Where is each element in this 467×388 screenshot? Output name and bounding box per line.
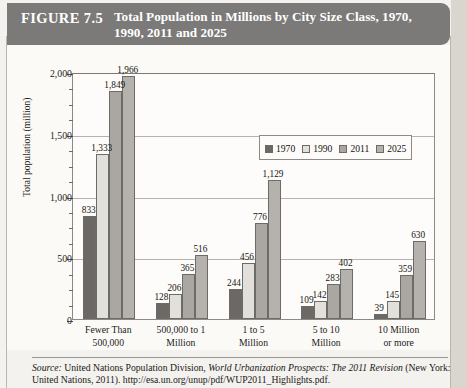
- bar: [83, 216, 96, 319]
- x-axis-label-line: 5 to 10: [312, 324, 341, 337]
- figure-title: Total Population in Millions by City Siz…: [114, 9, 439, 40]
- bar: [156, 303, 169, 319]
- bar-value-label: 365: [180, 263, 194, 273]
- legend-label: 2025: [387, 143, 406, 154]
- legend-swatch-icon: [265, 145, 273, 153]
- legend-swatch-icon: [376, 145, 384, 153]
- bar-value-label: 402: [339, 258, 353, 268]
- source-note: Source: United Nations Population Divisi…: [32, 362, 452, 386]
- bar-value-label: 1,333: [91, 143, 112, 153]
- y-axis-label: 1,000: [7, 191, 72, 202]
- bar: [301, 306, 314, 319]
- bar: [255, 223, 268, 319]
- y-axis-minor-tick: [69, 213, 73, 214]
- x-axis-category-label: Fewer Than500,000: [85, 324, 131, 349]
- bar: [242, 263, 255, 319]
- source-divider: [32, 357, 448, 358]
- y-axis-minor-tick: [69, 290, 73, 291]
- legend-item-1970: 1970: [265, 143, 295, 154]
- x-axis-category-label: 1 to 5Million: [239, 324, 268, 349]
- source-publication-title: World Urbanization Prospects: The 2011 R…: [208, 362, 403, 373]
- bar-value-label: 128: [154, 292, 168, 302]
- y-axis-minor-tick: [69, 182, 73, 183]
- bar-value-label: 776: [253, 212, 267, 222]
- x-axis-label-line: 1 to 5: [239, 324, 268, 337]
- bar-value-label: 1,129: [263, 169, 284, 179]
- y-axis-label: 0: [7, 315, 72, 326]
- y-axis-minor-tick: [69, 228, 73, 229]
- y-axis-minor-tick: [69, 306, 73, 307]
- y-axis-minor-tick: [69, 105, 73, 106]
- page-gutter: [451, 0, 467, 388]
- x-axis-label-line: Fewer Than: [85, 324, 131, 337]
- legend-swatch-icon: [302, 145, 310, 153]
- x-axis-label-line: Million: [157, 337, 206, 350]
- bar-value-label: 1,966: [117, 65, 138, 75]
- source-label: Source:: [32, 362, 62, 373]
- bar: [413, 241, 426, 319]
- chart-legend: 1970199020112025: [259, 135, 412, 160]
- bar-value-label: 833: [82, 205, 96, 215]
- bar-value-label: 244: [227, 278, 241, 288]
- bar: [96, 154, 109, 319]
- bar-value-label: 283: [326, 273, 340, 283]
- source-text-before: United Nations Population Division,: [62, 362, 208, 373]
- legend-label: 2011: [350, 143, 369, 154]
- bar-value-label: 516: [193, 244, 207, 254]
- x-axis-label-line: 500,000: [85, 337, 131, 350]
- x-axis-category-label: 5 to 10Million: [312, 324, 341, 349]
- x-axis-category-label: 500,000 to 1Million: [157, 324, 206, 349]
- y-axis-minor-tick: [69, 275, 73, 276]
- y-axis-label: 500: [7, 253, 72, 264]
- y-axis-minor-tick: [69, 120, 73, 121]
- page-border-right: [450, 36, 451, 388]
- y-axis-minor-tick: [69, 167, 73, 168]
- bar-value-label: 109: [300, 295, 314, 305]
- bar-value-label: 145: [385, 290, 399, 300]
- bar-value-label: 630: [411, 230, 425, 240]
- legend-item-1990: 1990: [302, 143, 332, 154]
- bar: [400, 275, 413, 319]
- legend-item-2025: 2025: [376, 143, 406, 154]
- x-axis-label-line: Million: [312, 337, 341, 350]
- bar-value-label: 39: [375, 303, 384, 313]
- bar-value-label: 1,849: [104, 80, 125, 90]
- bar: [314, 301, 327, 319]
- bar: [268, 180, 281, 319]
- bar: [374, 314, 387, 319]
- y-axis-label: 1,500: [7, 129, 72, 140]
- bar-value-label: 359: [398, 264, 412, 274]
- bar-value-label: 142: [313, 290, 327, 300]
- legend-label: 1990: [313, 143, 332, 154]
- figure-page: FIGURE 7.5 Total Population in Millions …: [0, 0, 467, 388]
- plot-area: [72, 73, 435, 320]
- legend-item-2011: 2011: [339, 143, 369, 154]
- y-axis-minor-tick: [69, 151, 73, 152]
- legend-swatch-icon: [339, 145, 347, 153]
- bar: [327, 284, 340, 319]
- bar-value-label: 206: [167, 283, 181, 293]
- x-axis-label-line: or more: [378, 337, 419, 350]
- bar: [340, 269, 353, 319]
- bar: [195, 255, 208, 319]
- x-axis-category-label: 10 Millionor more: [378, 324, 419, 349]
- y-axis-minor-tick: [69, 244, 73, 245]
- x-axis-label-line: 500,000 to 1: [157, 324, 206, 337]
- figure-title-banner: FIGURE 7.5 Total Population in Millions …: [7, 3, 450, 45]
- y-axis-title: Total population (million): [21, 97, 32, 197]
- legend-label: 1970: [276, 143, 295, 154]
- x-axis-label-line: 10 Million: [378, 324, 419, 337]
- bar: [387, 301, 400, 319]
- bar: [182, 274, 195, 319]
- bar-value-label: 456: [240, 252, 254, 262]
- bar: [122, 76, 135, 319]
- x-axis-label-line: Million: [239, 337, 268, 350]
- figure-number: FIGURE 7.5: [21, 10, 103, 27]
- chart-container: Total population (million) 1970199020112…: [7, 45, 450, 350]
- bar: [229, 289, 242, 319]
- y-axis-minor-tick: [69, 89, 73, 90]
- bar: [169, 294, 182, 319]
- y-axis-label: 2,000: [7, 68, 72, 79]
- bar: [109, 91, 122, 319]
